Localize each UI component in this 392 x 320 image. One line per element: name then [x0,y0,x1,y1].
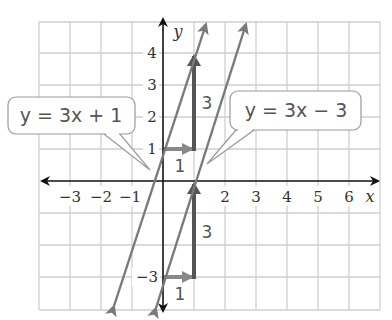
callout-text-left: y = 3x + 1 [20,104,123,126]
x-tick-label: −1 [119,188,141,206]
run-label-top: 1 [175,156,186,176]
y-tick-label: 2 [147,108,157,126]
x-tick-labels: −3 −2 −1 2 3 4 5 6 x [46,186,378,206]
callout-y-3x-plus-1: y = 3x + 1 [8,97,150,170]
line-y-3x-minus-3 [156,24,246,308]
callout-text-right: y = 3x − 3 [245,99,348,121]
x-tick-label: −2 [90,188,112,206]
rise-label-bottom: 3 [202,222,213,242]
x-tick-label: 4 [282,188,292,206]
x-axis-label: x [365,187,374,206]
x-tick-label: −3 [59,188,81,206]
y-tick-label: 4 [147,44,157,62]
x-tick-label: 2 [220,188,230,206]
y-tick-label: 1 [147,140,157,158]
x-tick-label: 3 [251,188,261,206]
y-axis-label: y [172,22,183,41]
run-label-bottom: 1 [175,284,186,304]
callout-y-3x-minus-3: y = 3x − 3 [207,91,361,164]
y-tick-label: 3 [147,76,157,94]
y-tick-label: −3 [136,268,158,286]
rise-label-top: 3 [202,93,213,113]
x-tick-label: 6 [344,188,354,206]
coordinate-plane: −3 −2 −1 2 3 4 5 6 x 4 3 2 1 −3 y 1 3 1 … [0,0,392,320]
x-tick-label: 5 [313,188,323,206]
grid [39,22,380,310]
